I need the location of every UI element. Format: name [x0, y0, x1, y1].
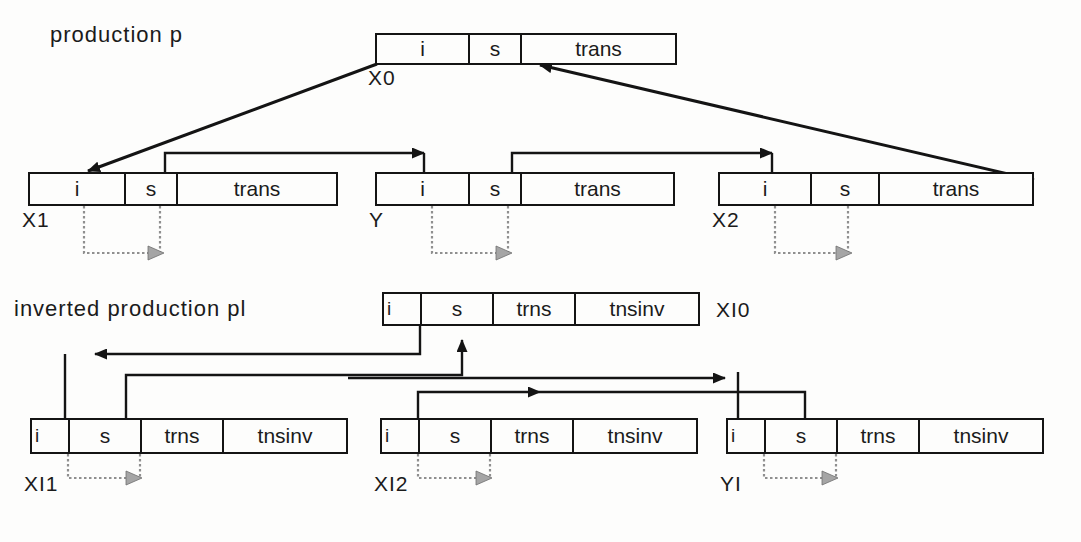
edge-x2-to-x0 [540, 65, 1034, 180]
edge-yi-bus [540, 392, 805, 418]
edge-xi2-to-xi1 [418, 392, 540, 418]
edge-xi0-to-xi1 [95, 326, 420, 354]
cell-XI1-3: tnsinv [224, 420, 346, 452]
cell-X1-0: i [30, 174, 126, 204]
node-XI0[interactable]: i s trns tnsinv [382, 292, 700, 326]
cell-X0-2: trans [522, 35, 675, 63]
node-X2[interactable]: i s trans [718, 172, 1034, 206]
label-X0: X0 [368, 66, 396, 90]
cell-X2-2: trans [880, 174, 1032, 204]
cell-XI0-2: trns [494, 294, 576, 324]
label-XI1: XI1 [24, 472, 59, 496]
node-X1[interactable]: i s trans [28, 172, 338, 206]
cell-X2-0: i [720, 174, 812, 204]
label-XI0: XI0 [716, 298, 751, 322]
node-X0[interactable]: i s trans [375, 33, 677, 65]
cell-YI-1: s [766, 420, 838, 452]
label-Y: Y [369, 208, 384, 232]
cell-XI0-1: s [422, 294, 494, 324]
cell-Y-2: trans [522, 174, 673, 204]
cell-XI2-2: trns [492, 420, 574, 452]
node-XI1[interactable]: i s trns tnsinv [30, 418, 348, 454]
cell-Y-1: s [470, 174, 522, 204]
cell-X2-1: s [812, 174, 880, 204]
cell-Y-0: i [377, 174, 470, 204]
node-YI[interactable]: i s trns tnsinv [726, 418, 1044, 454]
edge-y-to-x2 [512, 153, 772, 172]
cell-XI0-0: i [384, 294, 422, 324]
label-X2: X2 [712, 208, 740, 232]
cell-YI-0: i [728, 420, 766, 452]
cell-XI2-0: i [382, 420, 420, 452]
cell-YI-3: tnsinv [920, 420, 1042, 452]
label-XI2: XI2 [374, 472, 409, 496]
cell-X0-0: i [377, 35, 470, 63]
lower-caption: inverted production pl [14, 296, 246, 322]
cell-X1-2: trans [178, 174, 336, 204]
upper-caption: production p [50, 22, 183, 48]
cell-YI-2: trns [838, 420, 920, 452]
cell-XI0-3: tnsinv [576, 294, 698, 324]
label-X1: X1 [22, 208, 50, 232]
edge-x0-to-x1 [88, 64, 377, 171]
cell-XI1-2: trns [142, 420, 224, 452]
node-Y[interactable]: i s trans [375, 172, 675, 206]
node-XI2[interactable]: i s trns tnsinv [380, 418, 698, 454]
cell-XI2-1: s [420, 420, 492, 452]
diagram-canvas: production p inverted production pl i s … [0, 0, 1081, 542]
cell-XI1-0: i [32, 420, 70, 452]
edge-x1-to-y [165, 153, 424, 172]
cell-XI1-1: s [70, 420, 142, 452]
label-YI: YI [720, 472, 742, 496]
cell-X1-1: s [126, 174, 178, 204]
cell-XI2-3: tnsinv [574, 420, 696, 452]
cell-X0-1: s [470, 35, 522, 63]
connector-layer [0, 0, 1081, 542]
